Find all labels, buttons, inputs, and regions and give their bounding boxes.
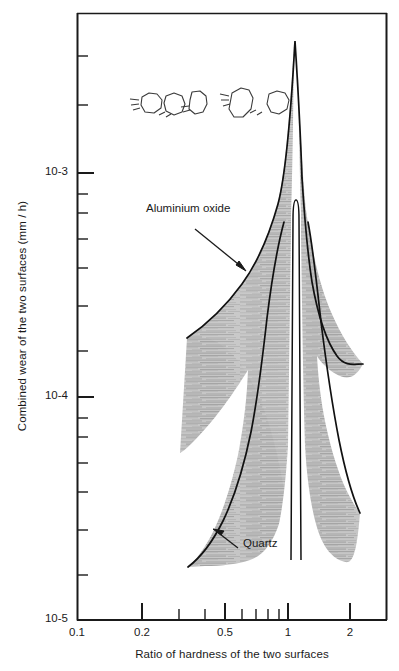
peak-notch <box>291 200 301 560</box>
wear-band-shaded-region <box>180 44 363 567</box>
x-tick-label-0-2: 0.2 <box>124 626 160 638</box>
chart-figure: 10-3 10-4 10-5 0.1 0.2 0.5 1 2 Combined … <box>0 0 399 671</box>
abrasive-particle-sketch <box>130 88 289 117</box>
y-tick-label-1e-5: 10-5 <box>22 612 68 624</box>
x-axis-title: Ratio of hardness of the two surfaces <box>77 648 387 660</box>
x-axis-ticks <box>142 603 350 619</box>
x-tick-label-2: 2 <box>332 626 368 638</box>
y-tick-label-1e-4: 10-4 <box>22 389 68 401</box>
chart-plot-area <box>0 0 399 671</box>
annotation-aluminium-oxide: Aluminium oxide <box>146 202 230 214</box>
y-tick-label-1e-3: 10-3 <box>22 165 68 177</box>
x-tick-label-1: 1 <box>270 626 306 638</box>
x-tick-label-0-1: 0.1 <box>59 626 95 638</box>
y-axis-ticks <box>78 56 94 620</box>
x-tick-label-0-5: 0.5 <box>207 626 243 638</box>
annotation-quartz: Quartz <box>243 537 278 549</box>
y-axis-title: Combined wear of the two surfaces (mm / … <box>16 166 28 466</box>
